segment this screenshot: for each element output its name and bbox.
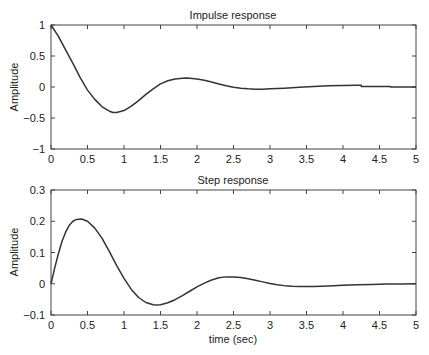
x-tick-label: 3.5 xyxy=(299,319,314,331)
step-response-panel: Step response Amplitude time (sec) 00.51… xyxy=(8,174,419,345)
step-y-axis-label: Amplitude xyxy=(8,228,20,277)
y-tick-label: −0.1 xyxy=(23,309,45,321)
impulse-y-axis-label: Amplitude xyxy=(8,63,20,112)
y-tick-label: 0 xyxy=(39,278,45,290)
x-tick-label: 4.5 xyxy=(372,319,387,331)
y-tick-label: 0.3 xyxy=(30,184,45,196)
y-tick-label: −1 xyxy=(32,143,45,155)
x-tick-label: 1.5 xyxy=(153,153,168,165)
x-tick-label: 5 xyxy=(413,319,419,331)
step-x-axis-label: time (sec) xyxy=(209,333,257,345)
step-response-title: Step response xyxy=(198,174,269,186)
step-axes-ticks: 00.511.522.533.544.55−0.100.10.20.3 xyxy=(23,184,419,331)
y-tick-label: 0 xyxy=(39,81,45,93)
x-tick-label: 4.5 xyxy=(372,153,387,165)
y-tick-label: 0.5 xyxy=(30,50,45,62)
y-tick-label: −0.5 xyxy=(23,112,45,124)
x-tick-label: 3 xyxy=(267,153,273,165)
y-tick-label: 1 xyxy=(39,19,45,31)
x-tick-label: 2.5 xyxy=(226,319,241,331)
impulse-curve xyxy=(51,25,416,112)
x-tick-label: 0 xyxy=(48,319,54,331)
step-plot-frame xyxy=(51,190,416,315)
step-curve xyxy=(51,219,416,305)
chart-canvas: Impulse response Amplitude 00.511.522.53… xyxy=(0,0,429,355)
x-tick-label: 2 xyxy=(194,153,200,165)
y-tick-label: 0.1 xyxy=(30,247,45,259)
x-tick-label: 0.5 xyxy=(80,153,95,165)
impulse-response-title: Impulse response xyxy=(190,9,277,21)
x-tick-label: 1.5 xyxy=(153,319,168,331)
impulse-response-panel: Impulse response Amplitude 00.511.522.53… xyxy=(8,9,419,165)
figure: Impulse response Amplitude 00.511.522.53… xyxy=(0,0,429,355)
x-tick-label: 3.5 xyxy=(299,153,314,165)
x-tick-label: 2.5 xyxy=(226,153,241,165)
x-tick-label: 4 xyxy=(340,153,346,165)
x-tick-label: 0.5 xyxy=(80,319,95,331)
x-tick-label: 2 xyxy=(194,319,200,331)
x-tick-label: 1 xyxy=(121,319,127,331)
impulse-axes-ticks: 00.511.522.533.544.55−1−0.500.51 xyxy=(23,19,419,165)
x-tick-label: 1 xyxy=(121,153,127,165)
y-tick-label: 0.2 xyxy=(30,215,45,227)
x-tick-label: 3 xyxy=(267,319,273,331)
x-tick-label: 0 xyxy=(48,153,54,165)
x-tick-label: 4 xyxy=(340,319,346,331)
x-tick-label: 5 xyxy=(413,153,419,165)
